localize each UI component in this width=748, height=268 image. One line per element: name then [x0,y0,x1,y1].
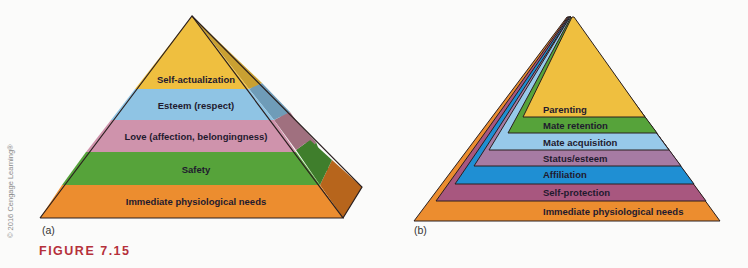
label-parenting: Parenting [543,104,587,115]
figure-caption: FIGURE 7.15 [39,244,131,258]
label-love: Love (affection, belongingness) [124,131,267,142]
pyramid-b: Parenting Mate retention Mate acquisitio… [414,17,720,221]
label-mate-retention: Mate retention [543,120,608,131]
label-safety: Safety [182,164,211,175]
label-self-actualization: Self-actualization [157,74,235,85]
copyright-notice: © 2016 Cengage Learning® [6,144,15,238]
panel-a-label: (a) [42,224,55,236]
label-self-protection: Self-protection [543,187,610,198]
figure-canvas: Self-actualization Esteem (respect) Love… [0,0,748,268]
label-affiliation: Affiliation [543,169,587,180]
label-physiological-a: Immediate physiological needs [126,196,266,207]
pyramid-a: Self-actualization Esteem (respect) Love… [40,16,362,218]
label-mate-acquisition: Mate acquisition [543,137,618,148]
label-status-esteem: Status/esteem [543,153,607,164]
label-esteem: Esteem (respect) [158,100,235,111]
panel-b-label: (b) [414,224,427,236]
label-physiological-b: Immediate physiological needs [543,206,683,217]
